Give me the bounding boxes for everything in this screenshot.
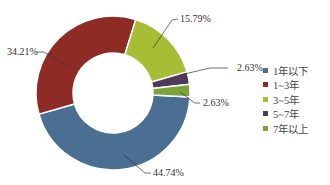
donut-slices [36, 16, 190, 170]
legend-label: 5~7年 [273, 106, 299, 121]
legend: 1年以下 1~3年 3~5年 5~7年 7年以上 [263, 63, 308, 136]
legend-swatch [263, 82, 268, 87]
legend-item-7-plus: 7年以上 [263, 121, 308, 136]
legend-label: 1~3年 [273, 77, 299, 92]
legend-label: 7年以上 [273, 121, 308, 136]
legend-swatch [263, 126, 268, 131]
value-label-3-5: 15.79% [180, 14, 211, 24]
slice-3-5 [125, 19, 187, 82]
value-label-7-plus: 2.63% [203, 98, 229, 108]
value-label-1-3: 34.21% [7, 47, 38, 57]
legend-item-1-below: 1年以下 [263, 63, 308, 78]
legend-item-1-3: 1~3年 [263, 78, 308, 93]
legend-label: 3~5年 [273, 92, 299, 107]
legend-label: 1年以下 [273, 63, 308, 78]
value-label-5-7: 2.63% [237, 63, 263, 73]
slice-1-3 [36, 16, 136, 114]
value-label-1-below: 44.74% [153, 168, 184, 178]
legend-swatch [263, 68, 268, 73]
legend-item-3-5: 3~5年 [263, 92, 308, 107]
legend-swatch [263, 97, 268, 102]
legend-swatch [263, 111, 268, 116]
legend-item-5-7: 5~7年 [263, 107, 308, 122]
